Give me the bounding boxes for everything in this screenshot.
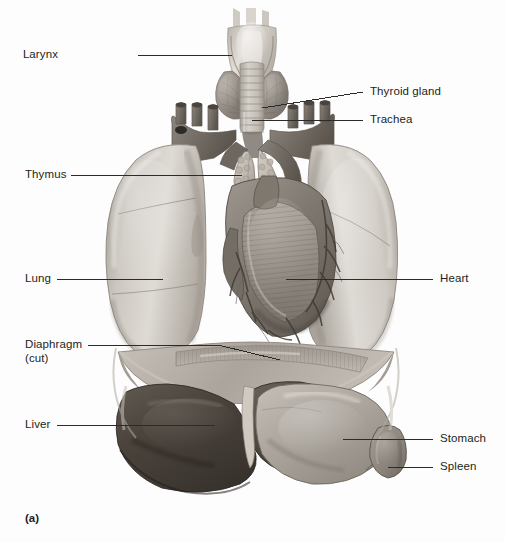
- label-lung: Lung: [25, 272, 51, 285]
- label-larynx: Larynx: [23, 48, 58, 61]
- figure-caption: (a): [25, 512, 39, 524]
- stomach-structure: [256, 384, 390, 484]
- figure-panel: Larynx Thyroid gland Trachea Thymus Lung…: [0, 0, 505, 542]
- trachea-structure: [240, 62, 264, 158]
- label-trachea: Trachea: [370, 113, 412, 126]
- anatomy-illustration: [0, 0, 505, 542]
- label-liver: Liver: [25, 418, 50, 431]
- right-lung-structure: [106, 145, 206, 359]
- label-thymus: Thymus: [25, 168, 67, 181]
- label-diaphragm-cut: (cut): [25, 352, 49, 365]
- label-diaphragm: Diaphragm: [25, 338, 82, 351]
- spleen-structure: [370, 425, 407, 478]
- label-thyroid-gland: Thyroid gland: [370, 85, 441, 98]
- label-heart: Heart: [440, 272, 469, 285]
- label-stomach: Stomach: [440, 432, 486, 445]
- label-spleen: Spleen: [440, 460, 476, 473]
